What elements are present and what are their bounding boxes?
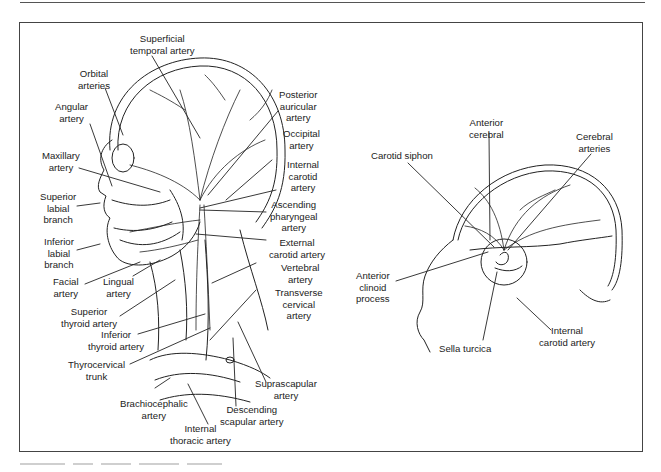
label-descending-scapular-artery: Descending scapular artery bbox=[220, 404, 283, 427]
label-inferior-labial-branch: Inferior labial branch bbox=[44, 236, 74, 271]
label-lingual-artery: Lingual artery bbox=[103, 276, 134, 299]
label-carotid-siphon: Carotid siphon bbox=[371, 150, 433, 162]
label-occipital-artery: Occipital artery bbox=[283, 128, 320, 151]
label-facial-artery: Facial artery bbox=[53, 276, 79, 299]
label-thyrocervical-trunk: Thyrocervical trunk bbox=[68, 359, 125, 382]
label-inferior-thyroid-artery: Inferior thyroid artery bbox=[88, 329, 144, 352]
label-transverse-cervical-artery: Transverse cervical artery bbox=[275, 287, 323, 322]
label-vertebral-artery: Vertebral artery bbox=[281, 262, 319, 285]
label-superficial-temporal-artery: Superficial temporal artery bbox=[130, 33, 195, 56]
label-anterior-cerebral: Anterior cerebral bbox=[469, 117, 504, 140]
label-orbital-arteries: Orbital arteries bbox=[78, 68, 110, 91]
label-brachiocephalic-artery: Brachiocephalic artery bbox=[120, 398, 188, 421]
label-sella-turcica: Sella turcica bbox=[439, 343, 491, 355]
label-suprascapular-artery: Suprascapular artery bbox=[255, 378, 317, 401]
label-superior-labial-branch: Superior labial branch bbox=[40, 191, 76, 226]
caption-cutoff bbox=[20, 463, 240, 467]
label-cerebral-arteries: Cerebral arteries bbox=[576, 131, 613, 154]
label-ascending-pharyngeal-artery: Ascending pharyngeal artery bbox=[270, 199, 317, 234]
leader-lines-right bbox=[396, 133, 591, 340]
label-anterior-clinoid-process: Anterior clinoid process bbox=[356, 270, 390, 305]
label-maxillary-artery: Maxillary artery bbox=[42, 150, 80, 173]
vessels-left bbox=[130, 75, 272, 330]
label-internal-carotid-artery-left: Internal carotid artery bbox=[287, 159, 319, 194]
label-posterior-auricular-artery: Posterior auricular artery bbox=[279, 89, 317, 124]
label-superior-thyroid-artery: Superior thyroid artery bbox=[61, 306, 117, 329]
label-external-carotid-artery: External carotid artery bbox=[269, 237, 325, 260]
head-outline-right bbox=[417, 165, 622, 352]
label-angular-artery: Angular artery bbox=[55, 101, 88, 124]
label-internal-carotid-artery-right: Internal carotid artery bbox=[539, 325, 595, 348]
